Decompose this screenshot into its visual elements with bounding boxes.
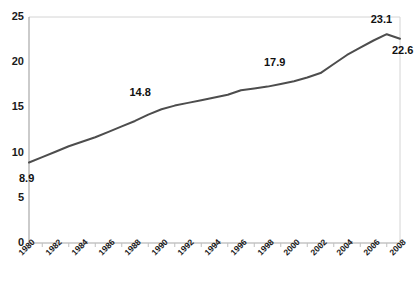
data-point-label: 22.6 — [392, 45, 413, 56]
data-series-line — [29, 34, 400, 162]
y-axis-tick-label: 15 — [2, 101, 24, 112]
y-axis-tick-label: 20 — [2, 56, 24, 67]
y-axis-tick-label: 5 — [2, 192, 24, 203]
y-axis-tick-label: 25 — [2, 11, 24, 22]
data-point-label: 8.9 — [19, 173, 34, 184]
y-axis-tick-label: 10 — [2, 147, 24, 158]
data-point-label: 23.1 — [371, 14, 392, 25]
data-point-label: 14.8 — [130, 87, 151, 98]
line-chart: 2520151050 19801982198419861988199019921… — [0, 0, 419, 287]
data-point-label: 17.9 — [264, 57, 285, 68]
